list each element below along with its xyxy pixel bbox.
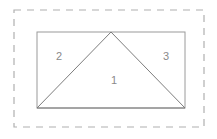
region-label-3: 3 [163,50,169,62]
region-label-2: 2 [56,50,62,62]
geometry-figure: 1 2 3 [0,0,217,139]
region-label-1: 1 [111,74,117,86]
outer-rectangle [37,32,185,108]
figure-canvas: 1 2 3 [0,0,217,139]
